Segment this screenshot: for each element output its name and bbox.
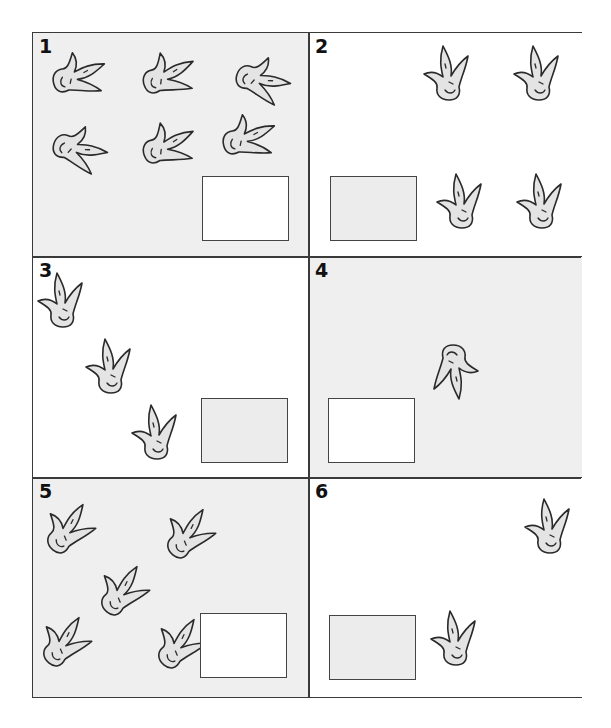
dinosaur-footprint-icon <box>47 46 111 102</box>
grid-divider-vertical <box>308 33 310 697</box>
panel-5: 5 <box>33 478 308 697</box>
dinosaur-footprint-icon <box>88 554 156 624</box>
answer-box[interactable] <box>201 398 288 463</box>
dinosaur-footprint-icon <box>217 108 281 164</box>
dinosaur-footprint-icon <box>30 605 98 675</box>
dinosaur-footprint-icon <box>34 492 102 562</box>
dinosaur-footprint-icon <box>49 120 113 176</box>
panel-2: 2 <box>309 33 582 256</box>
dinosaur-footprint-icon <box>424 46 468 100</box>
answer-box[interactable] <box>202 176 289 241</box>
panel-4: 4 <box>309 257 582 477</box>
dinosaur-footprint-icon <box>86 339 130 393</box>
dinosaur-footprint-icon <box>514 46 558 100</box>
dinosaur-footprint-icon <box>154 497 222 567</box>
grid-divider-horizontal <box>33 477 581 479</box>
counting-worksheet: 1 2 3 4 5 6 <box>32 32 582 698</box>
dinosaur-footprint-icon <box>136 114 202 174</box>
dinosaur-footprint-icon <box>232 51 296 107</box>
panel-1: 1 <box>33 33 308 256</box>
panel-6: 6 <box>309 478 582 697</box>
answer-box[interactable] <box>328 398 415 463</box>
dinosaur-footprint-icon <box>437 174 481 228</box>
dinosaur-footprint-icon <box>431 611 475 665</box>
dinosaur-footprint-icon <box>136 44 202 104</box>
dinosaur-footprint-icon <box>132 405 176 459</box>
grid-divider-horizontal <box>33 256 581 258</box>
dinosaur-footprint-icon <box>434 345 478 399</box>
dinosaur-footprint-icon <box>517 174 561 228</box>
panel-3: 3 <box>33 257 308 477</box>
answer-box[interactable] <box>329 615 416 680</box>
dinosaur-footprint-icon <box>38 273 82 327</box>
answer-box[interactable] <box>200 613 287 678</box>
answer-box[interactable] <box>330 176 417 241</box>
dinosaur-footprint-icon <box>525 499 569 553</box>
